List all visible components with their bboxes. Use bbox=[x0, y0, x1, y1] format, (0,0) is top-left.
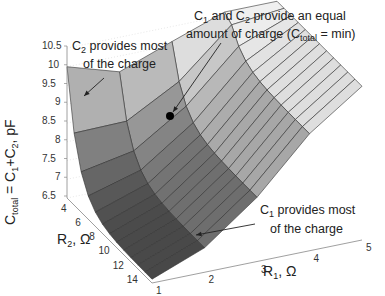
r2-axis-label: R2, Ω bbox=[57, 232, 90, 251]
r2-tick-label: 14 bbox=[127, 274, 138, 285]
r1-tick-label: 2 bbox=[209, 274, 215, 285]
minimum-point-marker bbox=[166, 112, 174, 120]
annotation-c1-most-line2: of the charge bbox=[270, 222, 343, 236]
z-tick-label: 10.5 bbox=[42, 40, 61, 51]
r1-axis-label: R1, Ω bbox=[263, 264, 296, 283]
annotation-equal-line2: amount of charge (Ctotal = min) bbox=[186, 27, 356, 45]
z-tick-label: 7 bbox=[55, 171, 61, 182]
z-tick-label: 8 bbox=[55, 134, 61, 145]
z-tick-label: 9.5 bbox=[42, 78, 56, 89]
z-tick-label: 10 bbox=[48, 59, 59, 70]
r1-tick-label: 4 bbox=[314, 253, 320, 264]
z-tick-label: 6.5 bbox=[42, 190, 56, 201]
annotation-c2-most-line2: of the charge bbox=[83, 57, 156, 71]
annotation-c1-most: C1 provides most bbox=[260, 203, 355, 221]
z-tick-label: 8.5 bbox=[42, 115, 56, 126]
annotation-equal: C1 and C2 provide an equal bbox=[194, 9, 346, 27]
r1-tick-label: 1 bbox=[156, 285, 162, 296]
z-tick-label: 7.5 bbox=[42, 153, 56, 164]
r2-tick-label: 4 bbox=[61, 203, 67, 214]
r2-tick-label: 12 bbox=[113, 260, 124, 271]
annotation-c2-most: C2 provides most bbox=[72, 39, 167, 57]
r2-tick-label: 6 bbox=[75, 217, 81, 228]
r2-tick-label: 10 bbox=[98, 245, 109, 256]
z-tick-label: 9 bbox=[55, 96, 61, 107]
z-axis-label: Ctotal = C1+C2, pF bbox=[2, 119, 20, 225]
r1-tick-label: 5 bbox=[366, 242, 372, 253]
